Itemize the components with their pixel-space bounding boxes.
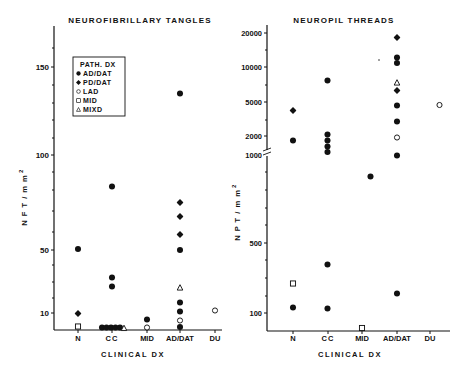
svg-text:MIXD: MIXD xyxy=(83,106,103,113)
svg-text:N F T / m m: N F T / m m xyxy=(20,174,29,225)
npt-x-tick-labels: N CC MID AD/DAT DU xyxy=(290,334,435,343)
svg-text:500: 500 xyxy=(249,239,262,248)
legend: PATH. DX AD/DAT PD/DAT LAD MID MIXD xyxy=(73,57,125,116)
svg-text:MID: MID xyxy=(83,97,97,104)
nft-tick-10: 10 xyxy=(40,309,49,318)
nft-tick-50: 50 xyxy=(40,246,49,255)
svg-text:100: 100 xyxy=(249,309,262,318)
svg-text:PD/DAT: PD/DAT xyxy=(83,79,112,86)
svg-text:LAD: LAD xyxy=(83,88,99,95)
open-circle-icon xyxy=(77,90,81,94)
svg-text:2: 2 xyxy=(18,169,24,173)
axis-break-icon xyxy=(263,148,271,155)
npt-chart: NEUROPIL THREADS 20 xyxy=(231,16,450,359)
nft-x-tick-labels: N CC MID AD/DAT DU xyxy=(75,334,220,343)
svg-text:20000: 20000 xyxy=(241,29,262,38)
nft-chart-title: NEUROFIBRILLARY TANGLES xyxy=(68,16,211,25)
svg-text:AD/DAT: AD/DAT xyxy=(166,334,194,343)
figure: NEUROFIBRILLARY TANGLES 150 100 xyxy=(0,0,466,375)
svg-text:N: N xyxy=(75,334,80,343)
open-square-icon xyxy=(77,99,81,103)
nft-y-label: N F T / m m 2 xyxy=(18,169,29,226)
svg-text:2: 2 xyxy=(231,184,237,188)
nft-chart: NEUROFIBRILLARY TANGLES 150 100 xyxy=(18,16,222,359)
svg-text:DU: DU xyxy=(210,334,221,343)
filled-circle-icon xyxy=(76,71,80,75)
npt-chart-title: NEUROPIL THREADS xyxy=(293,16,394,25)
svg-text:1000: 1000 xyxy=(245,151,262,160)
svg-text:MID: MID xyxy=(140,334,154,343)
svg-text:N P T / m m: N P T / m m xyxy=(233,189,242,241)
svg-text:DU: DU xyxy=(425,334,436,343)
legend-title: PATH. DX xyxy=(80,61,116,68)
svg-text:N: N xyxy=(290,334,295,343)
npt-x-label: CLINICAL DX xyxy=(318,350,382,359)
npt-y-label: N P T / m m 2 xyxy=(231,184,242,241)
nft-tick-150: 150 xyxy=(36,63,50,72)
nft-tick-100: 100 xyxy=(36,151,50,160)
svg-text:MID: MID xyxy=(355,334,369,343)
svg-text:CC: CC xyxy=(322,334,335,343)
svg-text:2000: 2000 xyxy=(245,132,262,141)
npt-points xyxy=(290,34,443,331)
svg-text:CC: CC xyxy=(106,334,119,343)
svg-text:AD/DAT: AD/DAT xyxy=(383,334,411,343)
svg-text:5000: 5000 xyxy=(245,98,262,107)
nft-y-tick-labels: 150 100 50 10 xyxy=(36,63,50,318)
svg-text:AD/DAT: AD/DAT xyxy=(83,70,112,77)
nft-x-label: CLINICAL DX xyxy=(101,350,165,359)
npt-y-tick-labels: 20000 10000 5000 2000 1000 500 100 xyxy=(241,29,262,318)
nft-points xyxy=(75,90,218,330)
svg-text:10000: 10000 xyxy=(241,63,262,72)
